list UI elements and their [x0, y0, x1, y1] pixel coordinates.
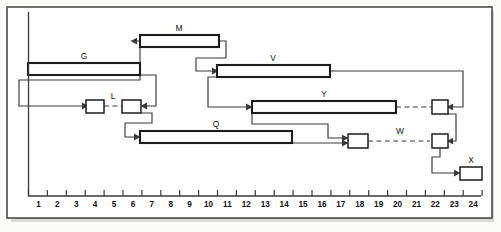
bar-M[interactable]: [140, 35, 219, 47]
axis-label-2: 2: [55, 200, 60, 209]
diagram-frame: [7, 7, 492, 218]
node-box-X[interactable]: [460, 167, 482, 180]
node-box-1[interactable]: [86, 100, 104, 113]
node-box-2[interactable]: [122, 100, 141, 113]
axis-label-11: 11: [223, 200, 232, 209]
label-M: M: [176, 23, 183, 33]
label-L: L: [111, 91, 116, 101]
bar-Y[interactable]: [252, 101, 396, 113]
axis-label-24: 24: [469, 200, 479, 209]
axis-label-5: 5: [112, 200, 117, 209]
axis-label-16: 16: [317, 200, 327, 209]
bar-Q[interactable]: [140, 131, 292, 143]
axis-label-20: 20: [393, 200, 403, 209]
axis-label-8: 8: [168, 200, 173, 209]
label-Y: Y: [321, 89, 327, 99]
node-box-5[interactable]: [432, 134, 448, 148]
label-Q: Q: [213, 119, 220, 129]
axis-label-3: 3: [74, 200, 79, 209]
axis-label-12: 12: [242, 200, 252, 209]
node-box-3[interactable]: [432, 100, 448, 114]
axis-label-4: 4: [93, 200, 98, 209]
network-diagram: G M V Y Q L W X 123456789101112131415161…: [0, 0, 501, 232]
axis-label-7: 7: [150, 200, 155, 209]
label-V: V: [270, 53, 276, 63]
axis-label-23: 23: [450, 200, 460, 209]
axis-label-14: 14: [280, 200, 290, 209]
diagram-page: G M V Y Q L W X 123456789101112131415161…: [0, 0, 501, 232]
axis-label-9: 9: [187, 200, 192, 209]
label-X: X: [468, 155, 474, 165]
axis-label-1: 1: [36, 200, 41, 209]
axis-label-21: 21: [412, 200, 422, 209]
axis-label-13: 13: [261, 200, 271, 209]
axis-label-10: 10: [204, 200, 214, 209]
axis-label-6: 6: [131, 200, 136, 209]
label-G: G: [81, 51, 88, 61]
bar-G[interactable]: [28, 63, 140, 75]
axis-label-18: 18: [355, 200, 365, 209]
label-W: W: [396, 126, 404, 136]
axis-label-19: 19: [374, 200, 384, 209]
node-box-4[interactable]: [348, 134, 368, 148]
axis-label-17: 17: [336, 200, 346, 209]
axis-label-15: 15: [298, 200, 308, 209]
bar-V[interactable]: [217, 65, 330, 77]
axis-label-22: 22: [431, 200, 441, 209]
